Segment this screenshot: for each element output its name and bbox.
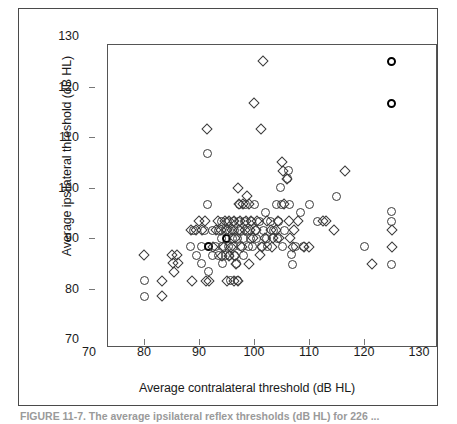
y-tick-label: 110 [39,130,79,144]
y-tick-mark [89,238,95,239]
x-tick-mark [199,339,200,345]
figure-container: Average ipsilateral threshold (dB HL) Av… [0,0,457,424]
x-tick-label: 90 [177,345,221,359]
y-tick-label: 80 [39,282,79,296]
x-tick-mark [254,339,255,345]
figure-frame: Average ipsilateral threshold (dB HL) Av… [18,8,438,406]
y-tick-label: 90 [39,231,79,245]
y-tick-mark [89,188,95,189]
y-tick-mark [89,87,95,88]
figure-caption: FIGURE 11-7. The average ipsilateral ref… [20,410,440,424]
x-tick-label: 120 [342,345,386,359]
x-tick-label: 70 [67,345,111,359]
x-tick-mark [309,339,310,345]
y-tick-label: 100 [39,181,79,195]
y-tick-label: 70 [39,332,79,346]
x-tick-label: 130 [397,345,441,359]
y-tick-mark [89,289,95,290]
x-axis-title: Average contralateral threshold (dB HL) [37,381,457,395]
y-tick-mark [89,137,95,138]
x-tick-mark [144,339,145,345]
y-tick-label: 120 [39,80,79,94]
x-tick-label: 80 [122,345,166,359]
x-tick-label: 100 [232,345,276,359]
y-tick-label: 130 [39,29,79,43]
x-tick-label: 110 [287,345,331,359]
x-tick-mark [364,339,365,345]
y-axis-title: Average ipsilateral threshold (dB HL) [60,26,74,286]
plot-area [107,44,437,347]
